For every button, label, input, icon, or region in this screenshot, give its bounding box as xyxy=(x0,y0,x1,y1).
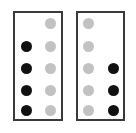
panel-right-dot-r5-c1-empty xyxy=(83,105,94,116)
panel-left-dot-r4-c2-empty xyxy=(45,85,56,96)
panel-right-dot-r4-c1-empty xyxy=(83,85,94,96)
panel-left xyxy=(13,11,63,121)
panel-right-dot-r2-c1-empty xyxy=(83,41,94,52)
panel-right-dot-r3-c2-filled xyxy=(108,63,119,74)
panel-left-dot-r5-c2-empty xyxy=(45,105,56,116)
panel-left-dot-r3-c2-empty xyxy=(45,63,56,74)
panel-right xyxy=(76,11,125,121)
panel-right-dot-r1-c1-empty xyxy=(83,18,94,29)
panel-left-dot-r2-c1-filled xyxy=(21,41,32,52)
panel-left-dot-r3-c1-filled xyxy=(21,63,32,74)
panel-left-dot-r1-c2-empty xyxy=(45,18,56,29)
dot-diagram-canvas xyxy=(0,0,136,133)
panel-left-dot-r5-c1-filled xyxy=(21,105,32,116)
panel-left-dot-r4-c1-filled xyxy=(21,85,32,96)
panel-right-dot-r5-c2-filled xyxy=(108,105,119,116)
panel-right-dot-r3-c1-empty xyxy=(83,63,94,74)
panel-left-dot-r2-c2-empty xyxy=(45,41,56,52)
panel-right-dot-r4-c2-filled xyxy=(108,85,119,96)
